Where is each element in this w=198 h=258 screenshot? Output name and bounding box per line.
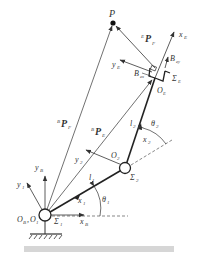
label-sigma1: Σ 1: [53, 217, 63, 227]
svg-text:E: E: [101, 133, 105, 138]
svg-text:2: 2: [148, 140, 151, 145]
svg-text:y: y: [16, 180, 21, 189]
svg-text:P: P: [145, 33, 152, 44]
svg-text:Σ: Σ: [53, 217, 59, 226]
svg-text:B: B: [57, 119, 60, 124]
label-O2: O 2: [111, 151, 120, 161]
figure-caption: [24, 246, 174, 252]
svg-text:x: x: [178, 30, 183, 39]
label-BPF: B P F: [57, 118, 72, 130]
label-Bex: B ex: [134, 69, 144, 79]
label-xE: x E: [178, 30, 187, 40]
label-y1: y 1: [16, 180, 25, 190]
label-y2: y 2: [74, 155, 83, 165]
vector-BPF: [45, 26, 112, 215]
svg-text:θ: θ: [102, 195, 106, 204]
svg-text:B: B: [85, 222, 88, 227]
svg-text:B: B: [40, 168, 43, 173]
end-effector-marker: [150, 65, 156, 70]
label-yB: y B: [34, 163, 43, 173]
label-OB-O1: O B , O 1: [17, 215, 39, 225]
svg-text:1: 1: [36, 220, 39, 225]
svg-text:E: E: [140, 34, 144, 39]
svg-text:Σ: Σ: [129, 173, 135, 182]
label-l2: l 2: [130, 119, 136, 129]
svg-text:F: F: [151, 41, 156, 46]
label-theta2: θ 2: [151, 119, 159, 129]
svg-text:1: 1: [60, 222, 63, 227]
svg-text:2: 2: [136, 178, 139, 183]
svg-text:P: P: [61, 118, 68, 129]
svg-text:F: F: [67, 125, 72, 130]
theta1-arc: [94, 186, 101, 216]
label-Bey: B ey: [170, 54, 180, 64]
link-1: [45, 168, 125, 215]
label-sigma2: Σ 2: [129, 173, 139, 183]
svg-text:B: B: [91, 127, 94, 132]
svg-text:θ: θ: [151, 119, 155, 128]
svg-text:y: y: [74, 155, 79, 164]
svg-text:B: B: [23, 220, 26, 225]
svg-text:B: B: [134, 69, 139, 78]
label-l1: l 1: [89, 173, 95, 183]
label-theta1: θ 1: [102, 195, 110, 205]
label-x2: x 2: [142, 135, 151, 145]
svg-text:E: E: [162, 91, 166, 96]
svg-text:y: y: [34, 163, 39, 172]
joint-2: [120, 163, 131, 174]
svg-text:x: x: [142, 135, 147, 144]
label-BPE: B P E: [91, 126, 105, 138]
svg-text:P: P: [95, 126, 102, 137]
kinematics-diagram: P E P F x E B ey y E B ex Σ E O E B P F …: [0, 0, 198, 258]
svg-text:1: 1: [83, 201, 86, 206]
svg-text:ey: ey: [176, 59, 180, 64]
label-P: P: [108, 8, 115, 19]
label-yE: y E: [111, 60, 120, 70]
label-x1: x 1: [77, 196, 86, 206]
svg-text:2: 2: [133, 124, 136, 129]
svg-text:B: B: [170, 54, 175, 63]
svg-text:2: 2: [156, 124, 159, 129]
svg-text:2: 2: [80, 160, 83, 165]
svg-text:x: x: [77, 196, 82, 205]
svg-text:E: E: [177, 79, 181, 84]
svg-text:2: 2: [117, 156, 120, 161]
svg-text:Σ: Σ: [171, 74, 177, 83]
svg-text:E: E: [116, 65, 120, 70]
label-sigmaE: Σ E: [171, 74, 181, 84]
svg-text:E: E: [183, 35, 187, 40]
label-OE: O E: [157, 86, 166, 96]
label-xB: x B: [79, 217, 88, 227]
svg-text:ex: ex: [140, 74, 144, 79]
basis-Bey: [165, 57, 168, 68]
svg-text:1: 1: [107, 200, 110, 205]
svg-text:,: ,: [27, 215, 29, 224]
svg-text:1: 1: [22, 185, 25, 190]
svg-text:y: y: [111, 60, 116, 69]
point-P: [110, 20, 115, 25]
svg-text:x: x: [79, 217, 84, 226]
joint-base: [39, 209, 51, 221]
label-EPF: E P F: [140, 33, 156, 46]
svg-text:1: 1: [92, 178, 95, 183]
